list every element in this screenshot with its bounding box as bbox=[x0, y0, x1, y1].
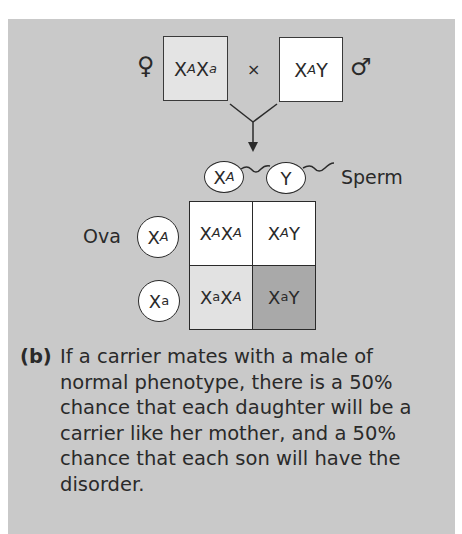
sperm-gamete-xa: XA bbox=[204, 161, 244, 193]
caption-text: If a carrier mates with a male of normal… bbox=[60, 344, 440, 497]
genotype-base: X bbox=[200, 223, 212, 244]
punnett-cell-XAY: XAY bbox=[253, 202, 316, 266]
gamete-base: X bbox=[147, 227, 159, 248]
punnett-square: XAXA XAY XaXA XaY bbox=[189, 201, 316, 330]
figure-caption: (b) If a carrier mates with a male of no… bbox=[20, 344, 440, 497]
punnett-cell-XaXA: XaXA bbox=[190, 266, 253, 330]
ova-gamete-xa-dominant: XA bbox=[137, 216, 179, 258]
genotype-base: X bbox=[221, 223, 233, 244]
genotype-base: Y bbox=[288, 287, 299, 308]
genotype-base: X bbox=[268, 287, 280, 308]
genotype-base: X bbox=[268, 223, 280, 244]
gamete-base: Y bbox=[281, 168, 292, 189]
genotype-base: Y bbox=[289, 223, 300, 244]
sperm-gamete-y: Y bbox=[266, 162, 306, 194]
ova-label: Ova bbox=[83, 225, 121, 247]
genotype-base: X bbox=[200, 287, 212, 308]
ova-gamete-xa-recessive: Xa bbox=[138, 280, 180, 322]
punnett-cell-XAXA: XAXA bbox=[190, 202, 253, 266]
punnett-cell-XaY: XaY bbox=[253, 266, 316, 330]
gamete-base: X bbox=[213, 167, 225, 188]
genotype-base: X bbox=[220, 287, 232, 308]
gamete-base: X bbox=[149, 291, 161, 312]
sperm-label: Sperm bbox=[341, 166, 403, 188]
panel-label: (b) bbox=[20, 344, 52, 370]
